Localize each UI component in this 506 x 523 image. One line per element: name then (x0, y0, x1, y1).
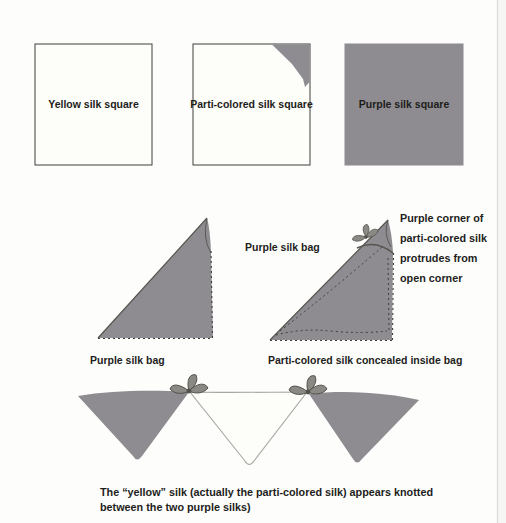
yellow-square-label: Yellow silk square (35, 44, 152, 165)
bottom-caption-line-2: between the two purple silks) (100, 500, 433, 515)
bottom-caption: The “yellow” silk (actually the parti-co… (100, 485, 433, 515)
annotation-line-4: open corner (400, 268, 502, 288)
annotation-line-3: protrudes from (400, 248, 502, 268)
knotted-silks-shape (78, 375, 419, 465)
right-knot-icon (289, 376, 327, 395)
bottom-right-purple-silk (309, 392, 419, 463)
bag-side-label: Purple silk bag (245, 241, 320, 254)
bottom-left-purple-silk (78, 391, 189, 460)
annotation-line-1: Purple corner of (400, 208, 502, 228)
protruding-corner-annotation: Purple corner of parti-colored silk prot… (400, 208, 502, 288)
parti-square-label: Parti-colored silk square (193, 44, 310, 165)
bottom-caption-line-1: The “yellow” silk (actually the parti-co… (100, 485, 433, 500)
purple-silk-bag-left-shape (98, 218, 213, 339)
annotation-line-2: parti-colored silk (400, 228, 502, 248)
right-bag-caption: Parti-colored silk concealed inside bag (268, 354, 462, 367)
bag-left-body (98, 218, 213, 338)
left-bag-caption: Purple silk bag (90, 354, 165, 367)
purple-silk-bag-right-shape (270, 220, 394, 341)
left-knot-icon (170, 375, 208, 394)
silk-trick-diagram: Yellow silk square Parti-colored silk sq… (0, 0, 506, 523)
purple-square-label: Purple silk square (345, 44, 463, 165)
bottom-middle-yellow-silk (190, 392, 307, 465)
